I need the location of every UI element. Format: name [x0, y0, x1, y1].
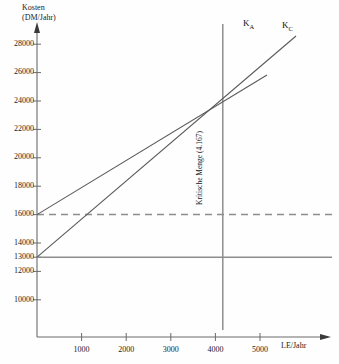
series-label-ka: KA: [243, 18, 254, 30]
x-tick-label: 5000: [240, 345, 280, 354]
series-line-kc: [37, 36, 296, 257]
cost-comparison-chart: Kosten (DM/Jahr) LE/Jahr: [0, 0, 339, 364]
plot-area: [0, 0, 339, 364]
y-tick-label: 24000: [0, 96, 34, 105]
y-tick-label: 12000: [0, 266, 34, 275]
y-axis-arrow: [34, 22, 40, 33]
series-line-ka: [37, 75, 267, 215]
y-tick-label: 14000: [0, 238, 34, 247]
x-tick-label: 4000: [195, 345, 235, 354]
series-label-ka-sub: A: [250, 23, 255, 30]
series-label-kc-sub: C: [289, 25, 293, 32]
series-label-kc: KC: [282, 20, 293, 32]
y-tick-label: 28000: [0, 39, 34, 48]
x-axis-arrow: [320, 334, 331, 340]
y-tick-label: 26000: [0, 67, 34, 76]
y-tick-label: 22000: [0, 124, 34, 133]
y-tick-label: 18000: [0, 181, 34, 190]
y-tick-label: 20000: [0, 152, 34, 161]
y-tick-label: 10000: [0, 295, 34, 304]
y-tick-label: 13000: [0, 252, 34, 261]
x-tick-label: 3000: [151, 345, 191, 354]
x-tick-label: 1000: [62, 345, 102, 354]
y-tick-label: 16000: [0, 209, 34, 218]
critical-quantity-annotation: Kritische Menge (4.167): [195, 105, 204, 205]
x-tick-label: 2000: [106, 345, 146, 354]
